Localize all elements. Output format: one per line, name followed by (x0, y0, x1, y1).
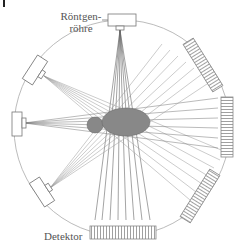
ct-scanner-diagram (0, 0, 244, 251)
object-large (102, 108, 150, 136)
detector-lower-right (180, 169, 220, 223)
xray-tube-left (12, 112, 26, 136)
xray-tube-lower-left (29, 175, 58, 207)
detector-label: Detektor (44, 230, 82, 242)
xray-tube-upper-left (22, 55, 51, 87)
beams-upper-left (44, 76, 226, 200)
detector-bottom (90, 226, 156, 239)
object-small (87, 117, 103, 133)
detector-right (221, 97, 233, 157)
xray-tube-label-line2: röhre (55, 22, 107, 34)
xray-tube-label: Röntgen- röhre (55, 10, 107, 34)
xray-tube-label-line1: Röntgen- (55, 10, 107, 22)
xray-tube-top (102, 14, 136, 30)
